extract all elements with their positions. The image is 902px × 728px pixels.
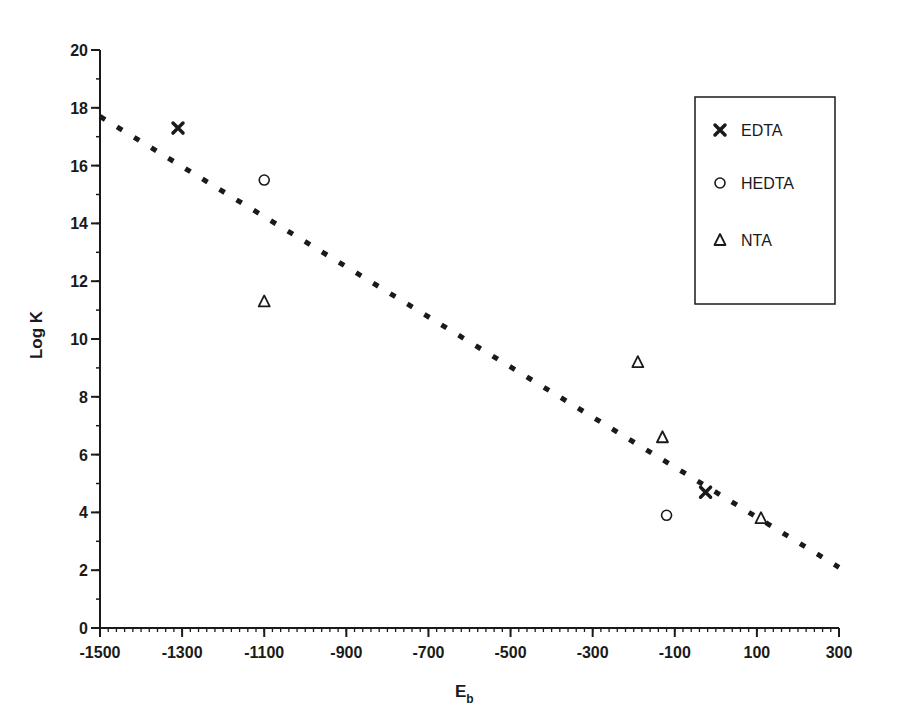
y-tick-label: 10 (70, 331, 88, 348)
triangle-marker-icon (632, 356, 643, 367)
x-tick-label: -1300 (162, 644, 203, 661)
data-point (259, 175, 269, 185)
y-tick-label: 0 (79, 620, 88, 637)
y-axis-title: Log K (27, 310, 46, 359)
circle-marker-icon (259, 175, 269, 185)
circle-marker-icon (662, 510, 672, 520)
y-tick-label: 12 (70, 273, 88, 290)
y-tick-label: 18 (70, 100, 88, 117)
x-axis-title-subscript: b (466, 692, 473, 706)
legend-label: NTA (741, 232, 772, 249)
legend-label: HEDTA (741, 175, 794, 192)
x-tick-label: -1100 (244, 644, 284, 661)
y-tick-label: 2 (79, 562, 88, 579)
y-tick-label: 8 (79, 389, 88, 406)
data-points (173, 123, 766, 523)
x-marker-icon (701, 487, 711, 497)
data-point (657, 431, 668, 442)
x-tick-label: 300 (826, 644, 853, 661)
x-tick-label: -900 (330, 644, 362, 661)
y-tick-label: 14 (70, 215, 88, 232)
data-point (701, 487, 711, 497)
x-axis: -1500-1300-1100-900-700-500-300-10010030… (80, 628, 853, 661)
series-nta (259, 295, 767, 523)
y-tick-label: 6 (79, 447, 88, 464)
data-point (755, 512, 766, 523)
data-point (632, 356, 643, 367)
x-tick-label: -700 (412, 644, 444, 661)
series-hedta (259, 175, 671, 520)
y-axis: 02468101214161820 (70, 42, 100, 637)
x-tick-label: 100 (744, 644, 771, 661)
data-point (259, 295, 270, 306)
circle-marker-icon (715, 178, 725, 188)
x-tick-label: -1500 (80, 644, 121, 661)
legend: EDTAHEDTANTA (695, 97, 835, 304)
x-marker-icon (173, 123, 183, 133)
x-tick-label: -100 (659, 644, 691, 661)
x-axis-title: Eb (455, 682, 474, 706)
y-tick-label: 20 (70, 42, 88, 59)
legend-marker (715, 178, 725, 188)
data-point (173, 123, 183, 133)
legend-label: EDTA (741, 122, 783, 139)
x-tick-label: -500 (495, 644, 527, 661)
data-point (662, 510, 672, 520)
triangle-marker-icon (657, 431, 668, 442)
x-tick-label: -300 (577, 644, 609, 661)
triangle-marker-icon (259, 295, 270, 306)
x-axis-title-main: E (455, 682, 466, 701)
triangle-marker-icon (755, 512, 766, 523)
y-tick-label: 4 (79, 504, 88, 521)
y-tick-label: 16 (70, 158, 88, 175)
scatter-chart: -1500-1300-1100-900-700-500-300-10010030… (0, 0, 902, 728)
